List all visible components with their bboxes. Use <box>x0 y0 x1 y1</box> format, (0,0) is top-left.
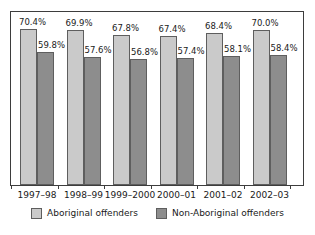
bar-aboriginal-offenders <box>206 33 223 185</box>
bar-value-label: 70.0% <box>252 19 279 28</box>
bar-aboriginal-offenders <box>67 30 84 185</box>
chart-legend: Aboriginal offendersNon-Aboriginal offen… <box>0 208 315 219</box>
bar-aboriginal-offenders <box>160 36 177 185</box>
bar-aboriginal-offenders <box>113 35 130 185</box>
bar-value-label: 59.8% <box>38 41 65 50</box>
bar-value-label: 57.4% <box>178 47 205 56</box>
bar-group: 69.9%57.6% <box>67 12 103 185</box>
bar-group: 67.8%56.8% <box>113 12 149 185</box>
plot-area: 70.4%59.8%69.9%57.6%67.8%56.8%67.4%57.4%… <box>11 12 303 185</box>
legend-label: Aboriginal offenders <box>47 208 138 219</box>
bar-group: 70.4%59.8% <box>20 12 56 185</box>
legend-swatch-icon <box>31 208 42 219</box>
bar-aboriginal-offenders <box>253 30 270 185</box>
bar-non-aboriginal-offenders <box>223 56 240 185</box>
bar-value-label: 69.9% <box>66 19 93 28</box>
x-axis-labels: 1997–981998–991999–20002000–012001–02200… <box>10 189 304 203</box>
bar-non-aboriginal-offenders <box>177 58 194 185</box>
bar-value-label: 67.8% <box>112 24 139 33</box>
legend-item: Aboriginal offenders <box>31 208 138 219</box>
bar-aboriginal-offenders <box>20 29 37 185</box>
bar-non-aboriginal-offenders <box>84 57 101 185</box>
bar-value-label: 58.4% <box>271 44 298 53</box>
bar-group: 68.4%58.1% <box>206 12 242 185</box>
bar-group: 70.0%58.4% <box>253 12 289 185</box>
bar-chart: 70.4%59.8%69.9%57.6%67.8%56.8%67.4%57.4%… <box>0 0 315 235</box>
legend-swatch-icon <box>156 208 167 219</box>
legend-item: Non-Aboriginal offenders <box>156 208 284 219</box>
legend-label: Non-Aboriginal offenders <box>172 208 284 219</box>
bar-value-label: 57.6% <box>85 46 112 55</box>
bar-value-label: 56.8% <box>131 48 158 57</box>
bar-value-label: 58.1% <box>224 45 251 54</box>
bar-value-label: 68.4% <box>205 22 232 31</box>
bar-non-aboriginal-offenders <box>37 52 54 185</box>
bar-group: 67.4%57.4% <box>160 12 196 185</box>
bar-non-aboriginal-offenders <box>270 55 287 185</box>
bar-value-label: 70.4% <box>19 18 46 27</box>
bar-value-label: 67.4% <box>159 25 186 34</box>
x-axis-tick-label: 2002–03 <box>243 189 297 201</box>
bar-non-aboriginal-offenders <box>130 59 147 185</box>
